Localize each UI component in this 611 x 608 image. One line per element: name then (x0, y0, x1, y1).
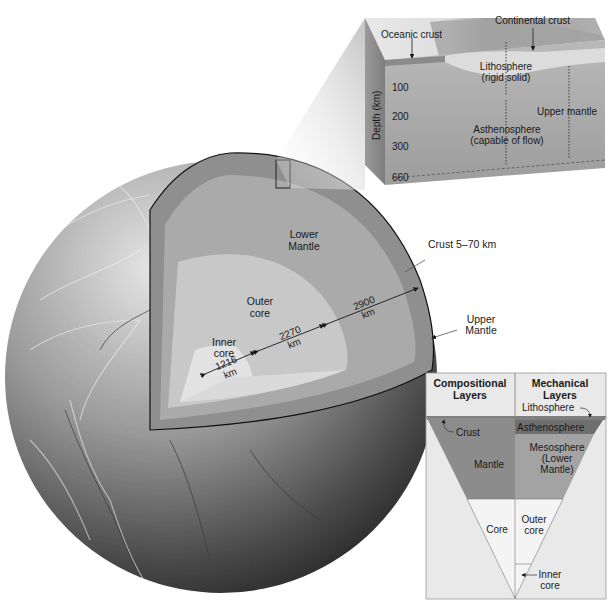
legend-mechanical-header: Mechanical (532, 377, 589, 389)
oceanic-crust-label: Oceanic crust (381, 29, 442, 40)
depth-tick-300: 300 (392, 141, 409, 152)
legend-asthenosphere-label: Asthenosphere (517, 422, 585, 433)
legend-core-label: Core (486, 524, 508, 535)
legend-outer-core-label: Outer (521, 514, 547, 525)
legend-mesosphere-label-3: Mantle) (540, 464, 573, 475)
lithosphere-label: Lithosphere (480, 61, 533, 72)
legend-mesosphere-label: Mesosphere (529, 442, 584, 453)
upper-mantle-label-2: Mantle (465, 324, 497, 336)
depth-axis-label: Depth (km) (371, 91, 382, 140)
depth-tick-100: 100 (392, 82, 409, 93)
legend-compositional-header: Compositional (434, 377, 507, 389)
lower-mantle-label-2: Mantle (288, 240, 320, 252)
legend-mantle-label: Mantle (474, 459, 504, 470)
lithosphere-block-diagram: Oceanic crust Continental crust Lithosph… (365, 15, 605, 185)
legend-mechanical-header-2: Layers (543, 389, 577, 401)
lower-mantle-label: Lower (290, 228, 319, 240)
earth-interior-figure: Oceanic crust Continental crust Lithosph… (0, 0, 611, 608)
asthenosphere-sublabel: (capable of flow) (470, 135, 543, 146)
asthenosphere-label: Asthenosphere (473, 124, 541, 135)
continental-crust-label: Continental crust (495, 15, 570, 26)
crust-label: Crust 5–70 km (428, 238, 497, 250)
legend-mesosphere-label-2: (Lower (542, 453, 573, 464)
legend-inner-core-label: Inner (539, 569, 562, 580)
lithosphere-sublabel: (rigid solid) (482, 72, 531, 83)
legend-lithosphere-label: Lithosphere (522, 402, 575, 413)
legend-inner-core-label-2: core (540, 580, 560, 591)
outer-core-label: Outer (247, 295, 274, 307)
zoom-beam (276, 18, 365, 190)
upper-mantle-leader-line (432, 330, 457, 338)
legend-compositional-header-2: Layers (453, 389, 487, 401)
layers-legend: Compositional Layers Mechanical Layers L… (426, 373, 606, 599)
cutaway-cross-section (150, 153, 434, 430)
upper-mantle-block-label: Upper mantle (537, 106, 597, 117)
depth-tick-200: 200 (392, 111, 409, 122)
legend-crust-label: Crust (456, 427, 480, 438)
legend-outer-core-label-2: core (524, 525, 544, 536)
depth-tick-660: 660 (392, 172, 409, 183)
outer-core-label-2: core (250, 307, 271, 319)
